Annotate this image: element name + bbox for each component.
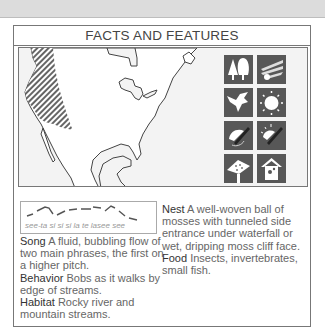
song-sonogram: see-ta si si si la te lasee see [20,201,157,234]
nest-sun-icon [257,121,286,150]
sun-icon [257,88,286,117]
facts-right-column: Nest A well-woven ball of mosses with tu… [162,203,307,276]
facts-panel: FACTS AND FEATURES [13,25,311,327]
woodland-trees-icon [224,55,253,84]
facts-left-column: Song A fluid, bubbling flow of two main … [20,235,170,320]
fact-nest: Nest A well-woven ball of mosses with tu… [162,203,307,252]
bird-feeder-icon [224,154,253,183]
top-band [0,0,325,18]
sonogram-waveform-icon [21,202,158,222]
flying-bird-icon [224,88,253,117]
fact-food: Food Insects, invertebrates, small fish. [162,252,307,276]
range-map [18,47,308,187]
fact-behavior: Behavior Bobs as it walks by edge of str… [20,272,170,296]
panel-title: FACTS AND FEATURES [14,26,310,46]
nest-cup-icon [224,121,253,150]
song-caption: see-ta si si si la te lasee see [25,221,125,230]
waterfall-spray-icon [257,55,286,84]
fact-habitat: Habitat Rocky river and mountain streams… [20,296,170,320]
fact-song: Song A fluid, bubbling flow of two main … [20,235,170,272]
birdhouse-icon [257,154,286,183]
